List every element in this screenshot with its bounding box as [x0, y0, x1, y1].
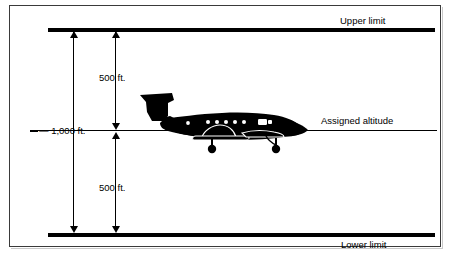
lower-limit-label: Lower limit	[341, 240, 386, 250]
arrow-up-icon	[112, 31, 120, 38]
total-span-label: — 1,000 ft.	[39, 126, 85, 136]
arrow-down-icon	[70, 226, 78, 233]
arrow-down-icon	[112, 123, 120, 130]
lower-limit-line	[48, 233, 435, 237]
upper-limit-line	[48, 28, 435, 32]
aircraft-silhouette-icon	[138, 90, 310, 166]
arrow-down-icon	[112, 226, 120, 233]
upper-limit-label: Upper limit	[340, 16, 385, 26]
upper-half-label: 500 ft.	[99, 73, 125, 83]
assigned-altitude-label: Assigned altitude	[321, 116, 393, 126]
assigned-altitude-tick	[30, 130, 38, 132]
figure-frame: Upper limit Lower limit Assigned altitud…	[9, 5, 441, 247]
altitude-band-figure: Upper limit Lower limit Assigned altitud…	[0, 0, 451, 254]
arrow-up-icon	[70, 31, 78, 38]
arrow-up-icon	[112, 132, 120, 139]
lower-half-label: 500 ft.	[99, 183, 125, 193]
